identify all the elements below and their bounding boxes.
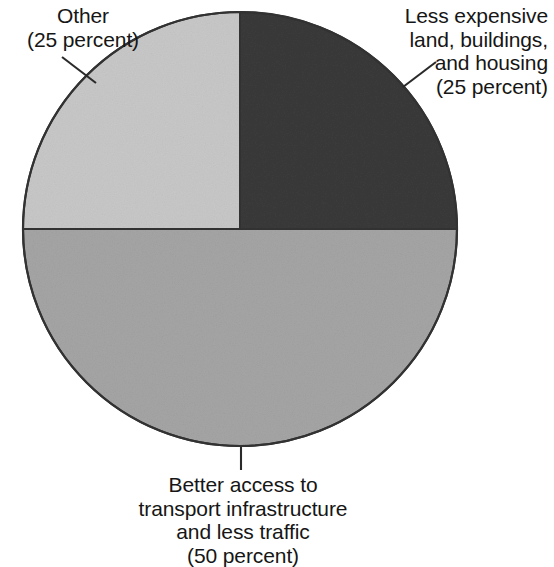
slice-label-transport-line-4: (50 percent) bbox=[0, 544, 486, 567]
slice-label-transport-line-3: and less traffic bbox=[0, 520, 486, 544]
slice-label-transport-line-2: transport infrastructure bbox=[0, 497, 486, 521]
pie-slice-better-access-transport bbox=[23, 229, 457, 446]
slice-label-other-line-2: (25 percent) bbox=[8, 28, 158, 52]
slice-label-land-line-2: land, buildings, bbox=[405, 28, 548, 52]
slice-label-land-line-3: and housing bbox=[405, 51, 548, 75]
slice-label-other: Other (25 percent) bbox=[8, 4, 158, 51]
slice-label-less-expensive-land: Less expensive land, buildings, and hous… bbox=[405, 4, 548, 98]
slice-label-land-line-4: (25 percent) bbox=[405, 75, 548, 99]
slice-label-other-line-1: Other bbox=[8, 4, 158, 28]
slice-label-transport-line-1: Better access to bbox=[0, 473, 486, 497]
slice-label-land-line-1: Less expensive bbox=[405, 4, 548, 28]
slice-label-better-access-transport: Better access to transport infrastructur… bbox=[0, 473, 486, 567]
